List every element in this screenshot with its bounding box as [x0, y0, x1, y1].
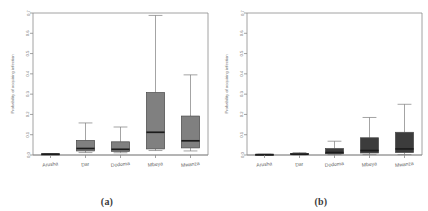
box-group: Dodoma	[325, 141, 345, 168]
y-tick-label: 0.7	[26, 9, 31, 15]
box-iqr	[146, 93, 164, 149]
boxplot-a: 0.00.10.20.30.40.50.60.7Probability of a…	[0, 0, 214, 180]
y-tick-label: 0.2	[240, 111, 245, 117]
x-tick-label: Mwanza	[395, 160, 414, 168]
x-tick-label: Dar	[81, 161, 90, 168]
y-tick-label: 0.1	[26, 131, 31, 137]
x-tick-label: Dar	[295, 161, 304, 168]
x-tick-label: Mwanza	[181, 160, 200, 168]
y-tick-label: 0.1	[240, 131, 245, 137]
y-tick-label: 0.5	[26, 50, 31, 56]
box-group: Dodoma	[111, 127, 131, 168]
box-group: Arusha	[255, 154, 273, 168]
box-iqr	[181, 116, 199, 148]
box-group: Dar	[76, 123, 94, 167]
y-tick-label: 0.4	[240, 70, 245, 76]
y-tick-label: 0.6	[26, 30, 31, 36]
y-tick-label: 0.0	[240, 151, 245, 157]
x-tick-label: Dodoma	[325, 160, 345, 168]
boxplot-b: 0.00.10.20.30.40.50.60.7Probability of a…	[214, 0, 428, 180]
x-tick-label: Mbeya	[148, 160, 164, 168]
box-iqr	[76, 140, 94, 151]
figure-container: 0.00.10.20.30.40.50.60.7Probability of a…	[0, 0, 428, 211]
y-axis-label: Probability of acquiring infection	[224, 54, 229, 114]
x-tick-label: Arusha	[42, 160, 59, 168]
x-tick-label: Mbeya	[362, 160, 378, 168]
box-group: Mbeya	[146, 15, 164, 167]
box-group: Mwanza	[181, 75, 200, 168]
y-tick-label: 0.0	[26, 151, 31, 157]
y-tick-label: 0.5	[240, 50, 245, 56]
y-axis-label: Probability of acquiring infection	[10, 54, 15, 114]
panel-a-caption: (a)	[0, 196, 214, 207]
x-tick-label: Arusha	[256, 160, 273, 168]
box-group: Mwanza	[395, 104, 414, 168]
x-tick-label: Dodoma	[111, 160, 131, 168]
y-tick-label: 0.3	[240, 91, 245, 97]
panel-b-caption: (b)	[214, 196, 428, 207]
y-tick-label: 0.6	[240, 30, 245, 36]
y-tick-label: 0.4	[26, 70, 31, 76]
box-group: Dar	[290, 153, 308, 168]
y-tick-label: 0.2	[26, 111, 31, 117]
y-tick-label: 0.3	[26, 91, 31, 97]
y-tick-label: 0.7	[240, 9, 245, 15]
panel-b: 0.00.10.20.30.40.50.60.7Probability of a…	[214, 0, 428, 211]
box-group: Arusha	[41, 154, 59, 168]
panel-a: 0.00.10.20.30.40.50.60.7Probability of a…	[0, 0, 214, 211]
box-group: Mbeya	[360, 117, 378, 167]
